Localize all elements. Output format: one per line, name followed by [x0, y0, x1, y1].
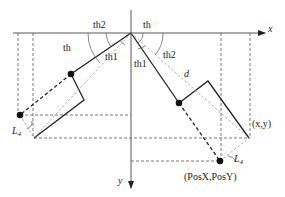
right-th1-label: th1	[134, 58, 147, 69]
right-dashed-link	[179, 103, 220, 161]
right-elbow-joint	[176, 100, 183, 107]
right-th2-arc	[155, 33, 163, 55]
left-target-point	[17, 112, 24, 119]
target-point-posxy	[217, 158, 224, 165]
left-link-1	[71, 33, 131, 74]
right-L4-label: L4	[233, 153, 244, 166]
top-th-arc	[138, 33, 143, 43]
left-th2-label: th2	[93, 19, 106, 30]
x-axis-label: x	[267, 23, 273, 34]
left-L4-segment	[20, 115, 34, 138]
left-th-label: th	[63, 42, 71, 53]
y-axis-label: y	[117, 175, 123, 186]
end-effector-label: (x,y)	[252, 118, 271, 130]
left-th2-arc	[106, 33, 111, 47]
right-link-2	[179, 81, 249, 138]
distance-d-label: d	[184, 68, 190, 79]
diagram-svg: x y th2 th th1 th th1 th2 d L4 L4 (x,y) …	[0, 0, 285, 197]
left-direction-line	[34, 33, 131, 138]
left-L4-label: L4	[11, 125, 22, 138]
top-th-label: th	[143, 19, 151, 30]
robot-arm-kinematics-diagram: x y th2 th th1 th th1 th2 d L4 L4 (x,y) …	[0, 0, 285, 197]
left-th1-label: th1	[105, 51, 118, 62]
left-elbow-joint	[68, 71, 75, 78]
target-label: (PosX,PosY)	[184, 171, 237, 183]
left-dashed-link	[20, 74, 71, 115]
right-th2-label: th2	[163, 49, 176, 60]
d-line	[131, 33, 249, 138]
